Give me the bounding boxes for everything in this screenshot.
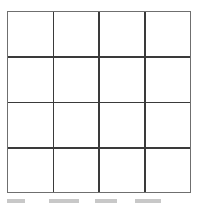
caption-glyph-fragment (7, 199, 25, 203)
grid-horizontal-line (8, 56, 190, 58)
grid-horizontal-line (8, 147, 190, 149)
clipped-caption (7, 199, 197, 203)
caption-glyph-fragment (49, 199, 79, 203)
caption-glyph-fragment (95, 199, 117, 203)
caption-glyph-fragment (135, 199, 161, 203)
grid-4x4 (7, 11, 191, 193)
grid-horizontal-line (8, 102, 190, 104)
